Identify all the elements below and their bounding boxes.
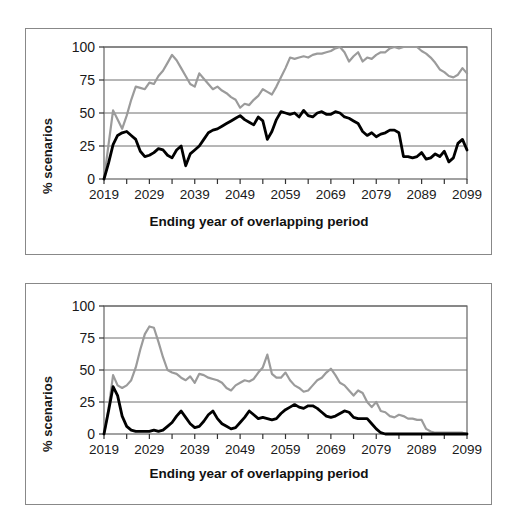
y-tick-label: 75 [79,72,95,88]
x-tick-label: 2059 [270,442,300,457]
y-tick-label: 50 [79,105,95,121]
chart-top-inner: 0255075100201920292039204920592069207920… [26,29,491,254]
x-tick-label: 2099 [452,442,482,457]
chart-bottom-inner: 0255075100201920292039204920592069207920… [26,284,491,504]
figure-root: 0255075100201920292039204920592069207920… [0,0,512,521]
chart-panel-top: 0255075100201920292039204920592069207920… [25,28,492,255]
x-tick-label: 2029 [134,187,164,202]
x-tick-label: 2049 [225,187,255,202]
x-tick-label: 2019 [89,442,119,457]
x-tick-label: 2049 [225,442,255,457]
y-tick-label: 0 [87,171,95,187]
y-tick-label: 25 [79,394,95,410]
x-tick-label: 2019 [89,187,119,202]
x-tick-label: 2039 [180,187,210,202]
plot-area: 0255075100201920292039204920592069207920… [72,298,482,457]
x-tick-label: 2089 [407,442,437,457]
y-tick-label: 100 [72,39,96,55]
y-tick-label: 0 [87,426,95,442]
x-axis-label-bottom: Ending year of overlapping period [104,466,414,481]
y-tick-label: 50 [79,362,95,378]
y-axis-label-top: % scenarios [40,118,55,194]
y-tick-label: 75 [79,330,95,346]
x-tick-label: 2099 [452,187,482,202]
x-tick-label: 2089 [407,187,437,202]
x-tick-label: 2069 [316,442,346,457]
y-axis-label-bottom: % scenarios [40,376,55,452]
x-tick-label: 2079 [361,187,391,202]
x-tick-label: 2039 [180,442,210,457]
x-tick-label: 2079 [361,442,391,457]
plot-area: 0255075100201920292039204920592069207920… [72,39,482,202]
x-axis-label-top: Ending year of overlapping period [104,214,414,229]
x-tick-label: 2059 [270,187,300,202]
x-tick-label: 2029 [134,442,164,457]
x-tick-label: 2069 [316,187,346,202]
y-tick-label: 25 [79,138,95,154]
chart-panel-bottom: 0255075100201920292039204920592069207920… [25,283,492,505]
y-tick-label: 100 [72,298,96,314]
